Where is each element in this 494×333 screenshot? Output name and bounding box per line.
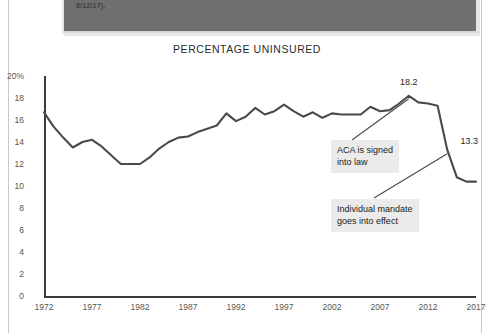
redacted-header-bar: 6/12/17). bbox=[62, 0, 478, 34]
point-label-13-3: 13.3 bbox=[460, 136, 478, 146]
x-tick-label: 1972 bbox=[35, 302, 54, 312]
line-series-svg bbox=[44, 76, 476, 298]
y-tick-label: 2 bbox=[0, 269, 24, 279]
x-tick-label: 1987 bbox=[179, 302, 198, 312]
y-tick-label: 12 bbox=[0, 159, 24, 169]
x-tick-label: 2002 bbox=[323, 302, 342, 312]
y-tick-label: 10 bbox=[0, 181, 24, 191]
annotation-individual-mandate: Individual mandate goes into effect bbox=[331, 199, 419, 232]
x-tick-label: 2007 bbox=[371, 302, 390, 312]
chart-title: PERCENTAGE UNINSURED bbox=[0, 43, 494, 55]
y-tick-label: 16 bbox=[0, 115, 24, 125]
y-tick-label: 8 bbox=[0, 203, 24, 213]
x-tick-label: 1982 bbox=[131, 302, 150, 312]
y-tick-label: 14 bbox=[0, 137, 24, 147]
y-tick-label: 20% bbox=[0, 71, 24, 81]
y-tick-label: 0 bbox=[0, 291, 24, 301]
x-tick-label: 1997 bbox=[275, 302, 294, 312]
x-tick-label: 1992 bbox=[227, 302, 246, 312]
y-tick-label: 18 bbox=[0, 93, 24, 103]
leader-line-aca bbox=[352, 99, 409, 140]
annotation-aca-signed: ACA is signed into law bbox=[331, 140, 399, 173]
point-label-18-2: 18.2 bbox=[400, 77, 418, 87]
x-tick-label: 2012 bbox=[419, 302, 438, 312]
chart-plot-area: 20%181614121086420 197219771982198719921… bbox=[44, 76, 476, 298]
y-tick-label: 6 bbox=[0, 225, 24, 235]
line-series-path bbox=[44, 96, 476, 182]
x-tick-label: 2017 bbox=[467, 302, 486, 312]
x-tick-label: 1977 bbox=[83, 302, 102, 312]
header-bar-text: 6/12/17). bbox=[76, 2, 105, 9]
y-tick-label: 4 bbox=[0, 247, 24, 257]
header-bar-shadow bbox=[64, 31, 478, 35]
